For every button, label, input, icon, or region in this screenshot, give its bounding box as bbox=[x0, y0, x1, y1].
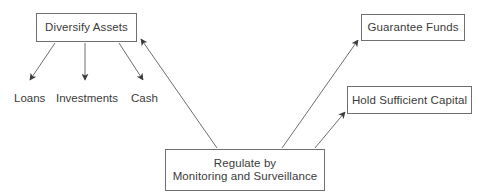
leaf-label-investments-text: Investments bbox=[56, 92, 118, 104]
edge-diversify-to-cash bbox=[119, 43, 143, 80]
leaf-label-cash: Cash bbox=[131, 92, 158, 105]
node-hold-sufficient-capital[interactable]: Hold Sufficient Capital bbox=[347, 86, 472, 114]
leaf-label-loans: Loans bbox=[14, 92, 45, 105]
edge-regulate-to-capital bbox=[315, 112, 345, 148]
node-diversify-assets-label: Diversify Assets bbox=[45, 21, 128, 34]
diagram-canvas: Diversify Assets Guarantee Funds Hold Su… bbox=[0, 0, 479, 195]
node-hold-sufficient-capital-label: Hold Sufficient Capital bbox=[352, 94, 467, 107]
node-diversify-assets[interactable]: Diversify Assets bbox=[36, 13, 137, 42]
node-guarantee-funds[interactable]: Guarantee Funds bbox=[361, 14, 465, 41]
edge-diversify-to-loans bbox=[30, 43, 55, 80]
leaf-label-loans-text: Loans bbox=[14, 92, 45, 104]
node-regulate-label: Regulate by Monitoring and Surveillance bbox=[173, 157, 318, 183]
node-regulate-by-monitoring-and-surveillance[interactable]: Regulate by Monitoring and Surveillance bbox=[165, 149, 325, 191]
leaf-label-investments: Investments bbox=[56, 92, 118, 105]
leaf-label-cash-text: Cash bbox=[131, 92, 158, 104]
node-guarantee-funds-label: Guarantee Funds bbox=[367, 21, 458, 34]
